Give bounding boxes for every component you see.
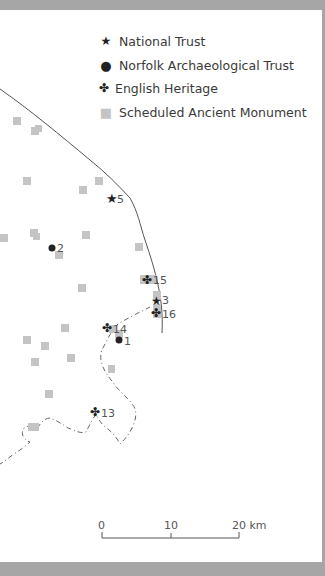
site-label-1: 1 [124,335,131,348]
clover-icon-15: ✤ [142,273,152,287]
coastline [0,89,162,333]
site-label-16: 16 [162,308,176,321]
scale-label-20: 20 km [232,519,267,532]
monument-squares [0,117,161,431]
clover-icon-14: ✤ [102,321,112,335]
scale-bar: 0 10 20 km [98,519,267,538]
star-icon-5: ★ [106,191,118,206]
scale-label-0: 0 [98,519,105,532]
clover-icon-16: ✤ [151,306,161,320]
site-label-3: 3 [162,294,169,307]
dot-icon-2 [49,245,56,252]
boundary-line [0,307,150,464]
map-page: ★ 5 ★ 3 2 1 ✤ 15 ✤ 16 ✤ 14 ✤ 13 0 10 20 … [0,10,322,562]
legend-label: Norfolk Archaeological Trust [119,58,294,73]
star-icon: ★ [99,34,113,48]
clover-icon: ✤ [97,81,111,95]
legend-label: National Trust [119,34,205,49]
site-label-15: 15 [153,274,167,287]
clover-icon-13: ✤ [90,405,100,419]
site-label-14: 14 [113,323,127,336]
dot-icon: ● [99,58,113,73]
scale-label-10: 10 [164,519,178,532]
legend-label: English Heritage [115,81,218,96]
dot-icon-1 [116,337,123,344]
square-icon: ■ [99,105,113,120]
site-label-2: 2 [57,242,64,255]
site-label-5: 5 [117,193,124,206]
site-label-13: 13 [101,407,115,420]
legend-label: Scheduled Ancient Monument [119,105,307,120]
